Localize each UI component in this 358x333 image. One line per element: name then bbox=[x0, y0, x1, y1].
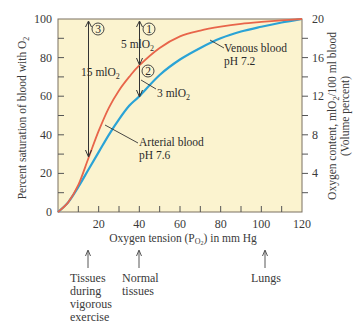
label-venous-blood: Venous blood bbox=[224, 42, 287, 54]
y-axis-title: Percent saturation of blood with O2 bbox=[16, 37, 31, 200]
y2-axis-subtitle: (Volume percent) bbox=[339, 76, 352, 156]
marker-arrow-exercise bbox=[86, 250, 91, 268]
svg-text:40: 40 bbox=[40, 128, 52, 142]
marker-label-lungs: Lungs bbox=[251, 272, 281, 285]
svg-text:20: 20 bbox=[93, 217, 105, 231]
label-venous-ph: pH 7.2 bbox=[224, 55, 256, 68]
svg-text:12: 12 bbox=[312, 89, 324, 103]
marker-label-normal: Normal tissues bbox=[122, 272, 159, 298]
svg-text:8: 8 bbox=[312, 128, 318, 142]
svg-text:1: 1 bbox=[146, 23, 152, 35]
svg-text:60: 60 bbox=[40, 89, 52, 103]
label-arterial-blood: Arterial blood bbox=[139, 136, 204, 148]
svg-text:100: 100 bbox=[252, 217, 270, 231]
marker-arrow-lungs bbox=[263, 250, 268, 268]
svg-text:60: 60 bbox=[174, 217, 186, 231]
oxygen-dissociation-chart: 0204060801001202040608010048121620 3 1 2… bbox=[0, 0, 358, 333]
svg-text:16: 16 bbox=[312, 51, 324, 65]
marker-label-exercise: Tissues during vigorous exercise bbox=[70, 272, 112, 324]
x-axis-title: Oxygen tension (PO2) in mm Hg bbox=[109, 232, 257, 246]
svg-text:20: 20 bbox=[312, 12, 324, 26]
svg-text:3: 3 bbox=[95, 23, 101, 35]
svg-text:120: 120 bbox=[293, 217, 311, 231]
svg-text:4: 4 bbox=[312, 166, 318, 180]
svg-text:80: 80 bbox=[40, 51, 52, 65]
marker-arrow-normal bbox=[137, 250, 142, 268]
label-arterial-ph: pH 7.6 bbox=[139, 149, 171, 162]
svg-text:2: 2 bbox=[145, 65, 151, 77]
svg-text:40: 40 bbox=[133, 217, 145, 231]
svg-text:80: 80 bbox=[215, 217, 227, 231]
svg-text:20: 20 bbox=[40, 166, 52, 180]
svg-text:0: 0 bbox=[46, 205, 52, 219]
svg-text:100: 100 bbox=[34, 12, 52, 26]
